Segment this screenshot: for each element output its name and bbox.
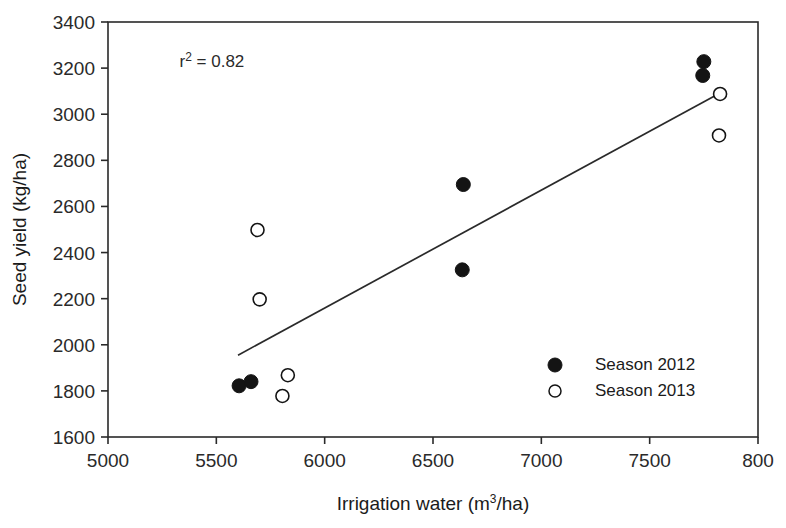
y-axis-tick-label: 1600 [53, 427, 95, 448]
x-axis-title: Irrigation water (m3/ha) [337, 492, 530, 514]
y-axis-tick-label: 1800 [53, 381, 95, 402]
data-point-season-2013[interactable] [251, 223, 264, 236]
data-point-season-2013[interactable] [281, 369, 294, 382]
data-point-season-2012[interactable] [696, 68, 710, 82]
data-point-season-2012[interactable] [456, 178, 470, 192]
data-point-season-2013[interactable] [713, 129, 726, 142]
legend-label-season-2013: Season 2013 [595, 381, 695, 400]
plot-frame [108, 22, 758, 437]
x-axis-tick-label: 5000 [87, 450, 129, 471]
data-point-season-2013[interactable] [276, 389, 289, 402]
chart-canvas: 1600180020002200240026002800300032003400… [0, 0, 786, 528]
y-axis-tick-label: 2400 [53, 243, 95, 264]
x-axis-tick-label: 800 [742, 450, 774, 471]
data-point-season-2013[interactable] [253, 293, 266, 306]
data-point-season-2012[interactable] [455, 263, 469, 277]
x-axis-tick-label: 7000 [520, 450, 562, 471]
legend-marker-season-2012 [548, 358, 562, 372]
x-axis-tick-label: 6000 [304, 450, 346, 471]
y-axis-tick-label: 2600 [53, 196, 95, 217]
y-axis-tick-label: 3400 [53, 12, 95, 33]
scatter-plot-figure: 1600180020002200240026002800300032003400… [0, 0, 786, 528]
y-axis-title: Seed yield (kg/ha) [9, 153, 30, 306]
y-axis-tick-label: 2800 [53, 150, 95, 171]
y-axis-tick-label: 2000 [53, 335, 95, 356]
data-point-season-2013[interactable] [714, 87, 727, 100]
x-axis-tick-label: 6500 [412, 450, 454, 471]
legend-marker-season-2013 [549, 385, 561, 397]
x-axis-tick-label: 5500 [195, 450, 237, 471]
y-axis-tick-label: 3000 [53, 104, 95, 125]
x-axis-tick-label: 7500 [629, 450, 671, 471]
legend-label-season-2012: Season 2012 [595, 355, 695, 374]
y-axis-tick-label: 2200 [53, 289, 95, 310]
data-point-season-2012[interactable] [697, 55, 711, 69]
data-point-season-2012[interactable] [244, 375, 258, 389]
y-axis-tick-label: 3200 [53, 58, 95, 79]
